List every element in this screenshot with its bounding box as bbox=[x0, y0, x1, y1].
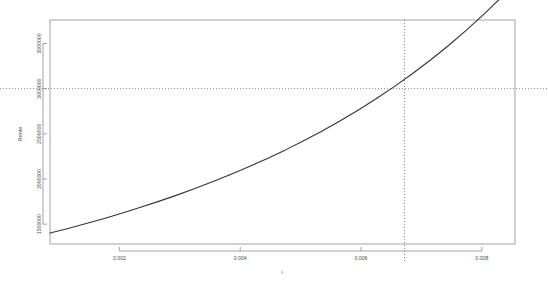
x-axis-title: i bbox=[281, 269, 282, 275]
y-axis-tick-label: 3500000 bbox=[36, 33, 42, 53]
x-axis-tick-label: 0.008 bbox=[475, 255, 488, 261]
x-axis-tick-label: 0.002 bbox=[113, 255, 126, 261]
y-axis-title: Rente bbox=[17, 127, 23, 141]
y-axis-tick-label: 1500000 bbox=[36, 214, 42, 234]
y-axis-tick-label: 2000000 bbox=[36, 169, 42, 189]
x-axis-tick-label: 0.004 bbox=[234, 255, 247, 261]
chart-svg: 15000002000000250000030000003500000 0.00… bbox=[0, 0, 548, 281]
chart-background bbox=[0, 0, 548, 281]
x-axis-tick-label: 0.006 bbox=[355, 255, 368, 261]
chart-plot-area: 15000002000000250000030000003500000 0.00… bbox=[0, 0, 548, 281]
y-axis-tick-label: 2500000 bbox=[36, 124, 42, 144]
